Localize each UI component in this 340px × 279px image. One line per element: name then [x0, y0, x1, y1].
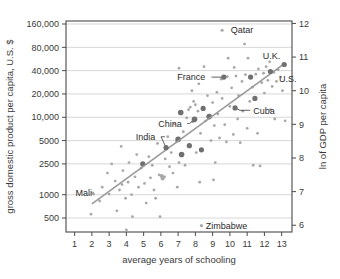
labeled-data-point — [232, 105, 237, 110]
data-point — [128, 161, 131, 164]
left-tick-label: 1000 — [39, 190, 59, 200]
data-point — [122, 169, 125, 172]
data-point — [246, 127, 249, 130]
x-tick-label: 11 — [242, 239, 251, 249]
x-tick-label: 7 — [176, 239, 181, 249]
data-point — [273, 118, 276, 121]
left-axis-ticks-group: 160,00080,00040,00020,00010,000500025001… — [26, 19, 66, 223]
data-point — [230, 86, 233, 89]
left-tick-label: 160,000 — [26, 19, 59, 29]
data-point — [263, 92, 266, 95]
data-point — [187, 143, 192, 148]
data-point — [197, 110, 200, 113]
data-point — [172, 172, 175, 175]
data-point — [265, 65, 268, 68]
data-point — [210, 139, 213, 142]
chart-canvas: 160,00080,00040,00020,00010,000500025001… — [0, 0, 340, 279]
secondary-y-axis-title: ln of GDP per capita — [317, 83, 328, 169]
y-axis-title: gross domestic product per capita, U.S. … — [4, 39, 15, 214]
data-point — [243, 43, 246, 46]
labeled-data-point — [192, 117, 198, 123]
data-point — [131, 215, 134, 218]
data-point — [275, 80, 278, 83]
data-point — [195, 151, 198, 154]
data-point — [206, 94, 209, 97]
country-label-qatar: Qatar — [231, 25, 254, 35]
labeled-data-point — [221, 29, 224, 32]
data-point — [201, 106, 206, 111]
data-point — [247, 57, 250, 60]
data-point — [135, 153, 138, 156]
data-point — [223, 123, 226, 126]
data-point — [199, 132, 202, 135]
data-point — [98, 200, 101, 203]
data-point — [168, 165, 171, 168]
data-point — [235, 75, 238, 78]
data-point — [214, 161, 217, 164]
left-tick-label: 2500 — [39, 159, 59, 169]
country-labels-group: QatarU.K.U.S.FranceCubaChinaIndiaMaliZim… — [75, 25, 296, 230]
data-point — [114, 180, 117, 183]
data-point — [145, 202, 148, 205]
data-point — [147, 155, 150, 158]
data-point — [153, 189, 156, 192]
data-point — [101, 186, 104, 189]
x-tick-label: 1 — [72, 239, 77, 249]
data-point — [213, 124, 216, 127]
data-point — [221, 97, 224, 100]
x-axis-ticks-group: 12345678910111213 — [72, 232, 287, 249]
data-point — [197, 82, 200, 85]
data-point — [134, 175, 137, 178]
data-point — [149, 176, 152, 179]
right-tick-label: 8 — [299, 153, 304, 163]
country-label-cuba: Cuba — [253, 106, 275, 116]
x-tick-label: 12 — [259, 239, 269, 249]
data-point — [170, 151, 173, 154]
data-point — [256, 132, 259, 135]
x-tick-label: 2 — [89, 239, 94, 249]
data-point — [216, 91, 219, 94]
labeled-data-point — [268, 69, 273, 74]
left-tick-label: 80,000 — [31, 43, 59, 53]
data-point — [164, 158, 167, 161]
data-point — [185, 117, 188, 120]
right-axis-ticks-group: 1211109876 — [292, 19, 309, 231]
data-point — [281, 89, 284, 92]
right-tick-label: 10 — [299, 86, 309, 96]
data-point — [182, 130, 185, 133]
x-tick-label: 13 — [277, 239, 287, 249]
data-point — [257, 68, 260, 71]
data-point — [241, 80, 244, 83]
data-point — [125, 229, 128, 232]
data-point — [178, 110, 184, 116]
data-point — [212, 179, 215, 182]
right-tick-label: 6 — [299, 220, 304, 230]
left-tick-label: 5000 — [39, 136, 59, 146]
gdp-schooling-scatter-chart: 160,00080,00040,00020,00010,000500025001… — [0, 0, 340, 279]
data-point — [166, 135, 169, 138]
data-point — [106, 172, 109, 175]
data-point — [271, 85, 274, 88]
data-point — [178, 67, 181, 70]
data-point — [110, 162, 113, 165]
data-point — [184, 164, 187, 167]
data-point — [154, 197, 157, 200]
x-tick-label: 5 — [141, 239, 146, 249]
data-point — [218, 137, 221, 140]
data-point — [179, 152, 185, 158]
data-point — [233, 66, 236, 69]
country-label-india: India — [136, 132, 156, 142]
data-point — [248, 75, 253, 80]
data-point — [198, 181, 201, 184]
x-tick-label: 8 — [193, 239, 198, 249]
right-tick-label: 7 — [299, 187, 304, 197]
data-point — [225, 141, 228, 144]
country-label-mali: Mali — [75, 188, 92, 198]
country-label-france: France — [177, 72, 205, 82]
data-point — [266, 79, 269, 82]
left-tick-label: 20,000 — [31, 89, 59, 99]
left-tick-label: 10,000 — [31, 112, 59, 122]
country-label-zimbabwe: Zimbabwe — [206, 221, 248, 231]
data-point — [232, 133, 235, 136]
data-point — [187, 108, 190, 111]
